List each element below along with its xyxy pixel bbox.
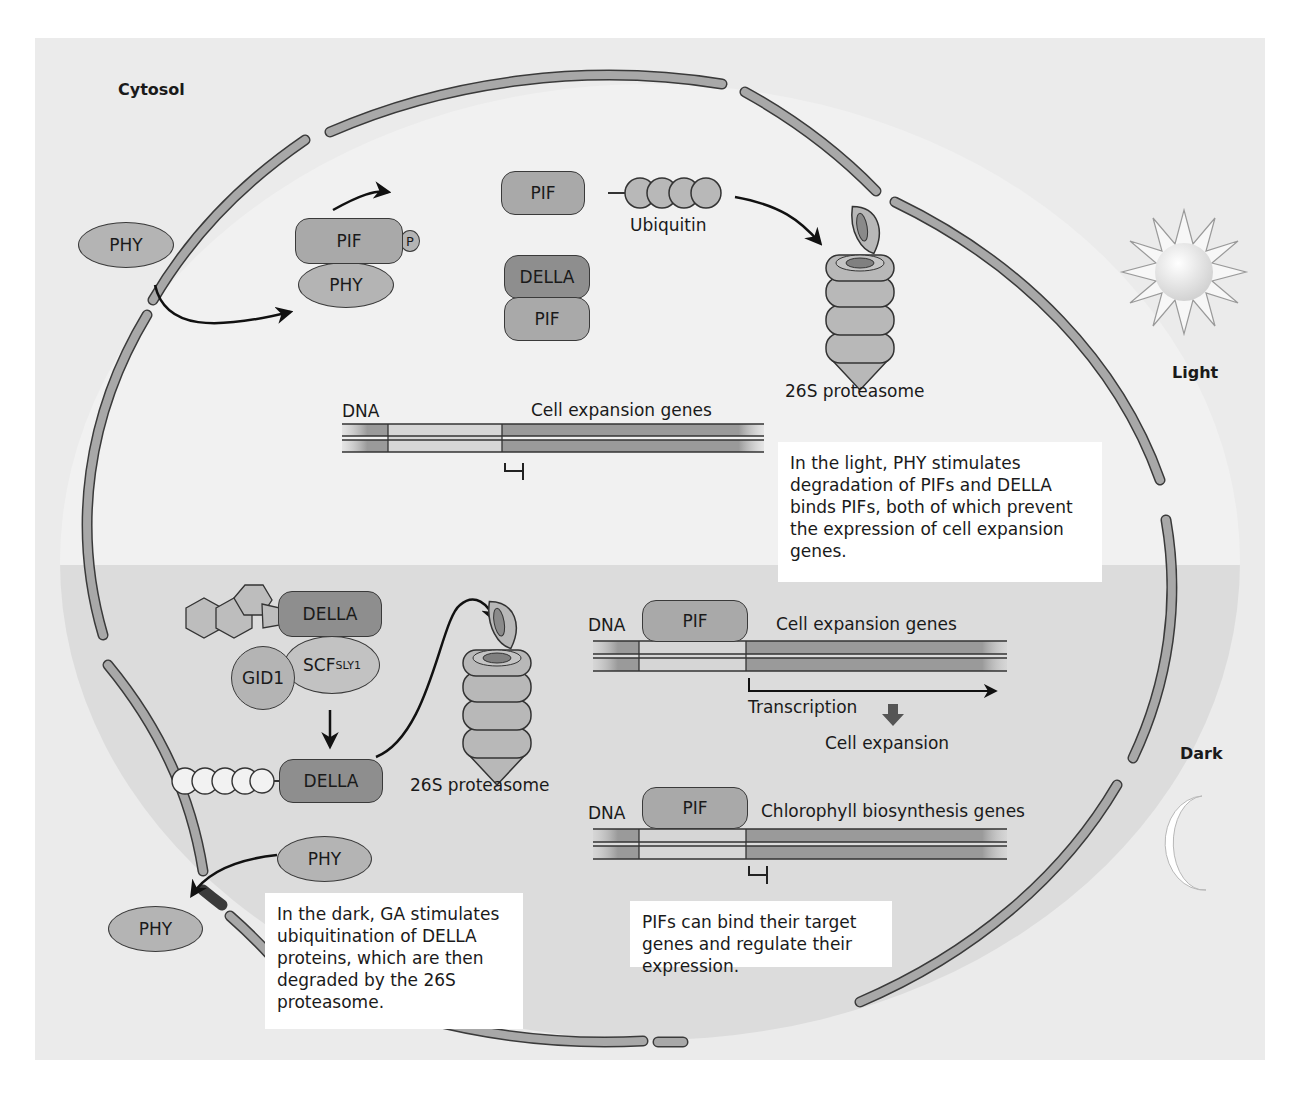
dna-dark2-label: DNA — [588, 805, 625, 822]
cytosol-label: Cytosol — [118, 82, 185, 98]
proteasome-dark-label: 26S proteasome — [410, 777, 549, 794]
light-label: Light — [1172, 365, 1218, 381]
pif-bound-dna2: PIF — [642, 787, 748, 829]
ubiquitin-label: Ubiquitin — [630, 217, 706, 234]
gene-dark2-label: Chlorophyll biosynthesis genes — [761, 803, 1025, 820]
ubiquitin-chain-dark — [172, 768, 279, 794]
moon-icon — [1165, 796, 1206, 890]
proteasome-light-label: 26S proteasome — [785, 383, 924, 400]
dna-dark1-label: DNA — [588, 617, 625, 634]
scf-sly1-complex: SCFSLY1 — [284, 636, 380, 694]
pif-in-complex: PIF — [295, 218, 403, 264]
dark-explanation-note: In the dark, GA stimulates ubiquitinatio… — [265, 893, 523, 1029]
gid1-receptor: GID1 — [231, 646, 295, 710]
cell-expansion-label: Cell expansion — [825, 735, 949, 752]
scf-label: SCF — [303, 655, 335, 675]
light-explanation-note: In the light, PHY stimulates degradation… — [778, 442, 1102, 582]
scf-superscript: SLY1 — [336, 659, 361, 672]
pif-explanation-note: PIFs can bind their target genes and reg… — [630, 901, 892, 967]
della-bound: DELLA — [504, 255, 590, 299]
pif-bound-dna1: PIF — [642, 600, 748, 642]
gene-dark1-label: Cell expansion genes — [776, 616, 957, 633]
della-in-complex: DELLA — [278, 591, 382, 637]
phy-in-complex: PHY — [298, 262, 394, 308]
dna-light-label: DNA — [342, 403, 379, 420]
transcription-label: Transcription — [748, 699, 857, 716]
phy-inside-dark: PHY — [277, 836, 372, 882]
dark-label: Dark — [1180, 746, 1223, 762]
pif-bound: PIF — [504, 297, 590, 341]
pif-ubiquitinated: PIF — [501, 171, 585, 215]
phy-outside-light: PHY — [78, 222, 174, 268]
phosphate-badge: P — [400, 230, 420, 252]
gene-light-label: Cell expansion genes — [531, 402, 712, 419]
phy-outside-dark: PHY — [108, 906, 203, 952]
della-ubiquitinated: DELLA — [279, 759, 383, 803]
